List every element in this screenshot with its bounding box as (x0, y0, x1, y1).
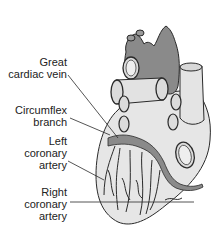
label-great-cardiac-vein: Great cardiac vein (8, 56, 67, 80)
label-left-coronary-artery: Left coronary artery (24, 135, 67, 171)
heart-diagram: Great cardiac vein Circumflex branch Lef… (0, 0, 224, 244)
vena-cava (180, 66, 204, 124)
label-right-coronary-artery: Right coronary artery (24, 186, 67, 222)
label-circumflex-branch: Circumflex branch (15, 104, 67, 128)
